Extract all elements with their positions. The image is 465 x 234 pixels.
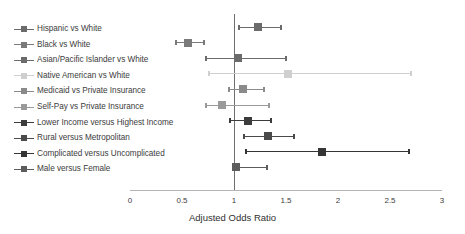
odds-ratio-point-marker [232,163,240,171]
confidence-interval-line [245,151,409,152]
confidence-interval-series [232,161,268,173]
ci-upper-cap [266,165,268,170]
ci-lower-cap [205,103,207,108]
ci-upper-cap [293,134,295,139]
odds-ratio-point-marker [239,85,247,93]
ci-lower-cap [245,149,247,154]
odds-ratio-point-marker [184,39,192,47]
confidence-interval-series [245,146,409,158]
plot-area: Adjusted Odds Ratio 00.511.522.53 [0,0,465,234]
ci-lower-cap [175,40,177,45]
ci-upper-cap [263,87,265,92]
odds-ratio-point-marker [218,101,226,109]
x-axis-tick-label: 3 [440,196,444,205]
odds-ratio-point-marker [244,117,252,125]
x-axis-tick-label: 2.5 [384,196,395,205]
odds-ratio-point-marker [254,23,262,31]
confidence-interval-series [205,99,271,111]
x-axis-tick-label: 0.5 [176,196,187,205]
odds-ratio-point-marker [318,148,326,156]
ci-lower-cap [229,118,231,123]
odds-ratio-point-marker [264,132,272,140]
confidence-interval-line [208,73,412,74]
ci-lower-cap [208,71,210,76]
ci-upper-cap [408,149,410,154]
ci-upper-cap [280,25,282,30]
ci-upper-cap [285,56,287,61]
forest-plot-figure: Hispanic vs WhiteBlack vs WhiteAsian/Pac… [0,0,465,234]
odds-ratio-point-marker [234,54,242,62]
confidence-interval-series [175,37,205,49]
confidence-interval-line [205,58,287,59]
x-axis-tick-label: 0 [128,196,132,205]
odds-ratio-point-marker [284,70,292,78]
ci-upper-cap [410,71,412,76]
x-axis-line [130,190,442,191]
ci-lower-cap [205,56,207,61]
x-axis-tick-label: 2 [336,196,340,205]
confidence-interval-series [205,52,287,64]
confidence-interval-series [228,83,265,95]
x-axis-tick [234,185,235,190]
confidence-interval-series [229,115,273,127]
confidence-interval-line [205,105,271,106]
confidence-interval-series [243,130,295,142]
ci-lower-cap [243,134,245,139]
ci-lower-cap [238,25,240,30]
ci-upper-cap [270,118,272,123]
x-axis-tick-label: 1.5 [280,196,291,205]
ci-lower-cap [228,87,230,92]
confidence-interval-series [208,68,412,80]
x-axis-tick-label: 1 [232,196,236,205]
ci-upper-cap [203,40,205,45]
confidence-interval-series [238,21,282,33]
x-axis-title: Adjusted Odds Ratio [0,212,465,223]
ci-upper-cap [268,103,270,108]
